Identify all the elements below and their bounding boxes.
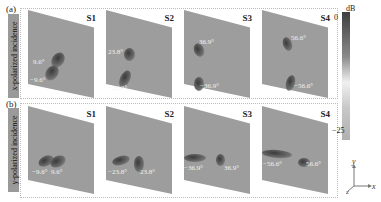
angle-label: −9.6° xyxy=(32,168,48,176)
panel-title: S4 xyxy=(320,109,330,119)
svg-text:y: y xyxy=(351,157,356,166)
angle-label: −56.6° xyxy=(263,160,282,168)
angle-label: 56.6° xyxy=(291,34,306,42)
angle-label: −56.6° xyxy=(294,82,313,90)
beam-lobe xyxy=(124,48,135,61)
angle-label: −36.9° xyxy=(200,82,219,90)
svg-text:z: z xyxy=(346,188,349,194)
panel-title: S1 xyxy=(86,109,96,119)
panel-b-s4: S4 −56.6° 56.6° xyxy=(258,106,336,194)
panel-title: S2 xyxy=(164,109,174,119)
field-plate xyxy=(106,106,172,194)
panel-a-s3: S3 36.9° −36.9° xyxy=(180,10,258,98)
angle-label: 9.6° xyxy=(33,58,45,66)
angle-label: 23.8° xyxy=(108,48,123,56)
panel-title: S3 xyxy=(242,109,252,119)
panel-title: S1 xyxy=(86,13,96,23)
panel-title: S4 xyxy=(320,13,330,23)
angle-label: 23.8° xyxy=(140,168,155,176)
angle-label: 56.6° xyxy=(306,160,321,168)
panel-title: S3 xyxy=(242,13,252,23)
svg-text:x: x xyxy=(371,182,376,191)
row-b-side-label: y-polarized incidence xyxy=(8,108,19,192)
panel-a-s4: S4 56.6° −56.6° xyxy=(258,10,336,98)
angle-label: −36.9° xyxy=(184,164,203,172)
row-a-label: (a) xyxy=(6,4,16,14)
colorbar-max: 0 xyxy=(334,13,338,22)
angle-label: −9.6° xyxy=(30,76,46,84)
beam-lobe xyxy=(184,154,206,162)
angle-label: −23.8° xyxy=(108,168,127,176)
panel-a-s1: S1 9.6° −9.6° xyxy=(24,10,102,98)
row-a-side-label: x-polarized incidence xyxy=(8,14,19,98)
colorbar-min: −25 xyxy=(332,126,345,135)
panel-a-s2: S2 23.8° −23.8° xyxy=(102,10,180,98)
panel-title: S2 xyxy=(164,13,174,23)
colorbar xyxy=(342,12,350,140)
field-plate xyxy=(184,106,250,194)
panel-b-s1: S1 −9.6° 9.6° xyxy=(24,106,102,194)
angle-label: −23.8° xyxy=(108,84,127,92)
angle-label: 9.6° xyxy=(51,168,63,176)
panel-b-s3: S3 −36.9° 36.9° xyxy=(180,106,258,194)
angle-label: 36.9° xyxy=(199,38,214,46)
coordinate-axes-icon: y x z xyxy=(346,156,378,194)
field-plate xyxy=(28,106,94,194)
panel-b-s2: S2 −23.8° 23.8° xyxy=(102,106,180,194)
angle-label: 36.9° xyxy=(224,164,239,172)
